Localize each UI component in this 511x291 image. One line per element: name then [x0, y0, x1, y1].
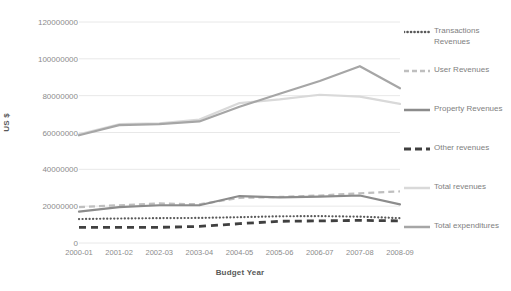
- y-axis-tick-label: 80000000: [2, 91, 78, 100]
- x-axis-tick-label: 2007-08: [346, 248, 374, 257]
- y-axis-tick-label: 100000000: [2, 54, 78, 63]
- x-axis-tick-label: 2006-07: [306, 248, 334, 257]
- x-axis-tick-label: 2000-01: [65, 248, 93, 257]
- solid-line-icon: [404, 105, 430, 115]
- solid-line-icon: [404, 222, 430, 232]
- series-line: [79, 220, 400, 227]
- plot-area: [79, 22, 400, 243]
- series-line: [79, 216, 400, 219]
- y-axis-tick-label: 20000000: [2, 202, 78, 211]
- light-solid-line-icon: [404, 183, 430, 193]
- series-line: [79, 95, 400, 135]
- dashed-line-icon: [404, 66, 430, 76]
- x-axis-tick-label: 2002-03: [145, 248, 173, 257]
- chart-legend: Transactions RevenuesUser RevenuesProper…: [404, 26, 511, 260]
- legend-item-label: Total revenues: [434, 182, 486, 193]
- series-line: [79, 66, 400, 135]
- x-axis-tick-labels: 2000-012001-022002-032003-042004-052005-…: [79, 248, 400, 262]
- legend-item[interactable]: Transactions Revenues: [404, 26, 511, 54]
- series-line: [79, 191, 400, 207]
- y-axis-tick-label: 60000000: [2, 128, 78, 137]
- chart-container: US $ 02000000040000000600000008000000010…: [0, 0, 511, 291]
- dotted-line-icon: [404, 27, 430, 37]
- legend-item[interactable]: Other revenues: [404, 143, 511, 171]
- x-axis-tick-label: 2003-04: [186, 248, 214, 257]
- legend-item[interactable]: Property Revenues: [404, 104, 511, 132]
- y-axis-tick-label: 40000000: [2, 165, 78, 174]
- x-axis-tick-label: 2005-06: [266, 248, 294, 257]
- x-axis-tick-label: 2001-02: [105, 248, 133, 257]
- legend-item[interactable]: User Revenues: [404, 65, 511, 93]
- legend-item[interactable]: Total revenues: [404, 182, 511, 210]
- y-axis-tick-label: 0: [2, 239, 78, 248]
- legend-item-label: Property Revenues: [434, 104, 502, 115]
- y-axis-tick-label: 120000000: [2, 18, 78, 27]
- legend-item-label: Other revenues: [434, 143, 489, 154]
- x-axis-tick-label: 2004-05: [226, 248, 254, 257]
- legend-item-label: Transactions Revenues: [434, 26, 508, 47]
- legend-item[interactable]: Total expenditures: [404, 221, 511, 249]
- gridlines: [79, 22, 400, 243]
- legend-item-label: User Revenues: [434, 65, 489, 76]
- legend-item-label: Total expenditures: [434, 221, 499, 232]
- x-axis-title: Budget Year: [80, 268, 400, 277]
- bold-dashed-line-icon: [404, 144, 430, 154]
